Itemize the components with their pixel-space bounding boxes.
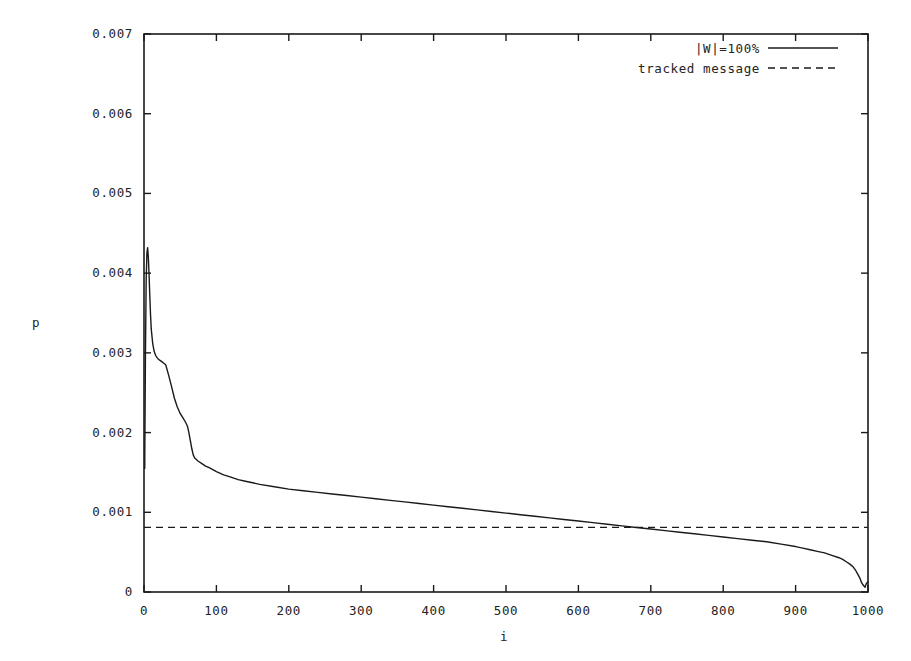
x-tick-label: 400	[421, 603, 445, 618]
plot-frame	[144, 34, 868, 592]
x-tick-label: 600	[566, 603, 590, 618]
x-tick-label: 1000	[852, 603, 885, 618]
plot-canvas	[0, 0, 911, 661]
y-tick-label: 0	[125, 584, 133, 599]
x-tick-label: 0	[140, 603, 148, 618]
y-tick-label: 0.005	[92, 185, 133, 200]
legend-entry-tracked-message-label: tracked message	[538, 61, 760, 76]
x-tick-label: 700	[639, 603, 663, 618]
y-tick-label: 0.007	[92, 26, 133, 41]
y-tick-label: 0.001	[92, 504, 133, 519]
chart-figure: 00.0010.0020.0030.0040.0050.0060.007 010…	[0, 0, 911, 661]
x-tick-label: 200	[277, 603, 301, 618]
series-w100-line	[145, 248, 868, 588]
x-tick-label: 900	[783, 603, 807, 618]
axis-tick-marks	[144, 34, 868, 592]
y-axis-label: p	[32, 315, 40, 330]
y-tick-label: 0.003	[92, 345, 133, 360]
x-tick-label: 100	[204, 603, 228, 618]
y-tick-label: 0.004	[92, 265, 133, 280]
y-tick-label: 0.002	[92, 425, 133, 440]
y-tick-label: 0.006	[92, 106, 133, 121]
x-tick-label: 500	[494, 603, 518, 618]
x-tick-label: 800	[711, 603, 735, 618]
x-axis-label: i	[500, 629, 508, 644]
legend-entry-w100-label: |W|=100%	[538, 41, 760, 56]
x-tick-label: 300	[349, 603, 373, 618]
